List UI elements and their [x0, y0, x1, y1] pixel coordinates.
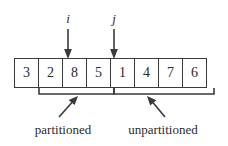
- up-left-arrow-icon: [147, 96, 165, 117]
- array-cell: 7: [158, 58, 183, 88]
- bracket-partitioned: [39, 88, 114, 94]
- region-label-unpartitioned: unpartitioned: [128, 123, 197, 136]
- array-cell: 2: [38, 58, 63, 88]
- array-row: 3 2 8 5 1 4 7 6: [14, 58, 214, 88]
- partition-diagram: i j 3 2 8 5 1 4 7 6 partitioned unpartit…: [0, 0, 228, 146]
- pointer-label-j: j: [112, 12, 116, 25]
- pointer-label-i: i: [66, 12, 70, 25]
- array-cell: 8: [62, 58, 87, 88]
- array-cell: 5: [86, 58, 111, 88]
- up-right-arrow-icon: [59, 96, 78, 117]
- down-arrow-icon: [64, 29, 72, 59]
- region-label-partitioned: partitioned: [35, 123, 91, 136]
- bracket-unpartitioned: [114, 88, 214, 94]
- array-cell: 4: [134, 58, 159, 88]
- array-cell: 6: [182, 58, 207, 88]
- down-arrow-icon: [110, 29, 118, 59]
- array-cell: 3: [14, 58, 39, 88]
- array-cell: 1: [110, 58, 135, 88]
